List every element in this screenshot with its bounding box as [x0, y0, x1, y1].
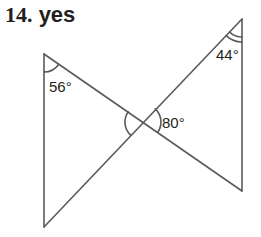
angle-arc-vertical-left — [125, 112, 131, 135]
angle-label-56: 56° — [49, 78, 72, 95]
angle-arc-80 — [155, 109, 161, 132]
angle-label-44: 44° — [216, 46, 239, 63]
bowtie-triangles-diagram: 56° 44° 80° — [0, 0, 261, 237]
angle-arc-56 — [44, 64, 59, 72]
angle-arc-44-inner — [230, 32, 242, 37]
angle-label-80: 80° — [162, 114, 185, 131]
ascending-transversal — [44, 19, 242, 227]
